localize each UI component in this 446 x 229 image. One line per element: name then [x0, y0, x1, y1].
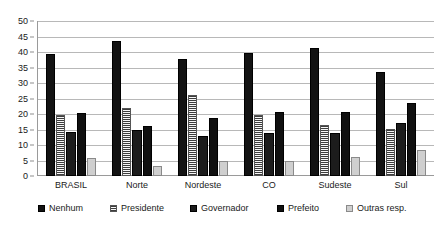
legend-swatch-icon	[346, 205, 353, 212]
x-axis: BRASILNorteNordesteCOSudesteSul	[38, 180, 434, 194]
legend-swatch-icon	[38, 205, 45, 212]
y-tick-mark	[30, 114, 34, 115]
y-tick-label: 0	[23, 172, 28, 181]
bar	[87, 158, 97, 176]
y-tick-mark	[30, 67, 34, 68]
bar	[56, 115, 66, 176]
y-tick-mark	[30, 98, 34, 99]
bar	[264, 133, 274, 176]
y-tick-label: 15	[18, 125, 28, 134]
bar	[285, 161, 295, 176]
legend-item[interactable]: Nenhum	[38, 203, 83, 213]
y-tick-mark	[30, 160, 34, 161]
bar	[66, 132, 76, 176]
x-tick-label: Nordeste	[185, 180, 222, 191]
bar	[143, 126, 153, 176]
bar-group	[170, 21, 236, 176]
bar	[122, 108, 132, 176]
y-tick-mark	[30, 145, 34, 146]
bar	[351, 157, 361, 176]
bar	[77, 113, 87, 176]
bar	[310, 48, 320, 176]
bar	[275, 112, 285, 176]
y-tick-mark	[30, 21, 34, 22]
bar	[178, 59, 188, 176]
y-tick-label: 25	[18, 94, 28, 103]
y-tick-label: 5	[23, 156, 28, 165]
bar	[198, 136, 208, 176]
bar	[132, 130, 142, 177]
bar	[46, 54, 56, 176]
y-tick-label: 45	[18, 32, 28, 41]
bar	[244, 53, 254, 176]
bar	[386, 129, 396, 176]
bar	[320, 125, 330, 176]
legend-swatch-icon	[110, 205, 117, 212]
bar	[209, 118, 219, 176]
bar	[396, 123, 406, 176]
bar	[254, 115, 264, 176]
y-tick-label: 30	[18, 79, 28, 88]
legend-label: Prefeito	[288, 203, 319, 213]
y-tick-label: 10	[18, 141, 28, 150]
bar-group	[236, 21, 302, 176]
legend-item[interactable]: Prefeito	[277, 203, 319, 213]
y-axis: 05101520253035404550	[0, 21, 33, 176]
legend-swatch-icon	[190, 205, 197, 212]
y-tick-mark	[30, 83, 34, 84]
legend-label: Nenhum	[49, 203, 83, 213]
bar-group	[368, 21, 434, 176]
bar	[407, 103, 417, 176]
bar-group	[302, 21, 368, 176]
x-tick-label: BRASIL	[55, 180, 87, 191]
bar	[417, 150, 427, 176]
bar	[341, 112, 351, 176]
legend-item[interactable]: Outras resp.	[346, 203, 407, 213]
x-tick-label: CO	[262, 180, 276, 191]
bar	[219, 161, 229, 176]
bar	[188, 95, 198, 176]
bar	[112, 41, 122, 176]
bar-group	[38, 21, 104, 176]
y-tick-label: 50	[18, 17, 28, 26]
legend-swatch-icon	[277, 205, 284, 212]
y-tick-label: 35	[18, 63, 28, 72]
bar	[330, 133, 340, 176]
y-tick-mark	[30, 176, 34, 177]
bar-group	[104, 21, 170, 176]
y-tick-mark	[30, 52, 34, 53]
legend-item[interactable]: Governador	[190, 203, 249, 213]
legend-item[interactable]: Presidente	[110, 203, 164, 213]
x-tick-label: Norte	[126, 180, 148, 191]
legend-label: Outras resp.	[357, 203, 407, 213]
y-tick-label: 40	[18, 48, 28, 57]
chart-legend: NenhumPresidenteGovernadorPrefeitoOutras…	[38, 203, 438, 217]
bar-chart: 05101520253035404550 BRASILNorteNordeste…	[0, 0, 446, 229]
bars-layer	[38, 21, 434, 176]
x-tick-label: Sul	[394, 180, 407, 191]
y-tick-label: 20	[18, 110, 28, 119]
x-tick-label: Sudeste	[318, 180, 351, 191]
y-tick-mark	[30, 36, 34, 37]
bar	[376, 72, 386, 176]
legend-label: Presidente	[121, 203, 164, 213]
legend-label: Governador	[201, 203, 249, 213]
y-tick-mark	[30, 129, 34, 130]
bar	[153, 166, 163, 176]
